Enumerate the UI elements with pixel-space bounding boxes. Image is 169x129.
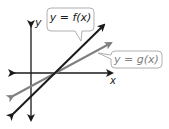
y-axis-label: y	[35, 16, 42, 29]
x-axis-label: x	[110, 75, 116, 86]
line-g	[13, 43, 111, 96]
line-f	[13, 25, 104, 114]
callout-f-label: y = f(x)	[47, 11, 94, 24]
callout-g-label: y = g(x)	[111, 53, 162, 66]
